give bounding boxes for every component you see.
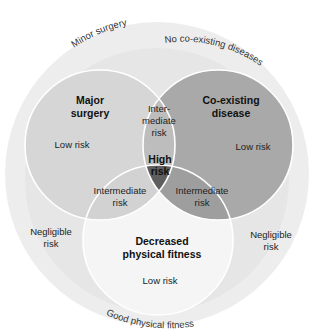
surgery-disease-line3: risk	[152, 127, 167, 138]
surgery-disease-line2: mediate	[142, 115, 176, 126]
decreased-fitness-risk: Low risk	[143, 275, 178, 286]
negligible-right-line1: Negligible	[250, 229, 292, 240]
decreased-fitness-title-line1: Decreased	[135, 235, 188, 247]
risk-venn-diagram: Minor surgery No co-existing diseases Go…	[0, 0, 312, 334]
high-risk-line1: High	[148, 153, 171, 165]
disease-fitness-line2: risk	[195, 197, 210, 208]
high-risk-line2: risk	[151, 165, 170, 177]
major-surgery-title-line1: Major	[76, 94, 104, 106]
negligible-left-line1: Negligible	[30, 226, 72, 237]
negligible-left-line2: risk	[44, 238, 59, 249]
co-existing-disease-title-line2: disease	[212, 107, 251, 119]
negligible-right-line2: risk	[264, 241, 279, 252]
surgery-fitness-line2: risk	[113, 197, 128, 208]
disease-fitness-line1: Intermediate	[176, 185, 229, 196]
co-existing-disease-title-line1: Co-existing	[202, 94, 259, 106]
decreased-fitness-title-line2: physical fitness	[123, 248, 202, 260]
major-surgery-risk: Low risk	[55, 139, 90, 150]
surgery-fitness-line1: Intermediate	[94, 185, 147, 196]
surgery-disease-line1: Inter-	[148, 103, 170, 114]
co-existing-disease-risk: Low risk	[236, 141, 271, 152]
major-surgery-title-line2: surgery	[71, 107, 110, 119]
